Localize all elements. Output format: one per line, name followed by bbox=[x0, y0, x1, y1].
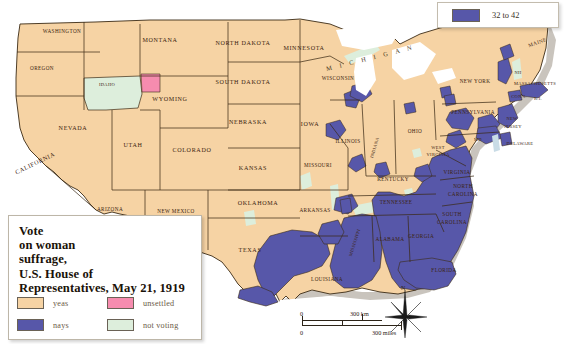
state-label-virginia: VIRGINIA bbox=[427, 152, 450, 157]
title-line-4: U.S. House of bbox=[19, 267, 201, 281]
legend-label-not-voting: not voting bbox=[143, 321, 178, 330]
state-label-new: NEW bbox=[506, 116, 518, 121]
state-label-georgia: GEORGIA bbox=[408, 233, 434, 239]
state-label-minnesota: MINNESOTA bbox=[283, 45, 324, 51]
state-label-north-dakota: NORTH DAKOTA bbox=[215, 40, 270, 46]
state-label-arkansas: ARKANSAS bbox=[299, 207, 330, 213]
state-label-oregon: OREGON bbox=[30, 65, 54, 71]
legend-row-1: yeas unsettled bbox=[17, 292, 197, 314]
legend-label-unsettled: unsettled bbox=[143, 299, 174, 308]
state-label-carolina: CAROLINA bbox=[437, 219, 467, 225]
state-label-jersey: JERSEY bbox=[504, 124, 522, 129]
legend-item-yeas[interactable]: yeas bbox=[17, 297, 107, 309]
legend-row-2: nays not voting bbox=[17, 314, 197, 336]
title-line-2: on woman bbox=[19, 238, 201, 252]
unsettled-regions bbox=[141, 74, 160, 92]
state-label-idaho: IDAHO bbox=[99, 82, 115, 87]
scale-km-max: 300 km bbox=[350, 310, 369, 317]
state-label-iowa: IOWA bbox=[301, 121, 320, 127]
nays-arkansas-east bbox=[340, 198, 352, 214]
state-label-washington: WASHINGTON bbox=[43, 28, 82, 34]
state-label-r-i: R.I. bbox=[534, 96, 542, 101]
compass-icon bbox=[383, 286, 429, 340]
state-label-south-dakota: SOUTH DAKOTA bbox=[216, 79, 271, 85]
state-label-delaware: DELAWARE bbox=[507, 141, 534, 146]
state-label-illinois: ILLINOIS bbox=[335, 138, 360, 144]
title-line-1: Vote bbox=[19, 224, 201, 238]
title-line-3: suffrage, bbox=[19, 252, 201, 266]
state-label-new-york: NEW YORK bbox=[460, 78, 491, 84]
state-label-louisiana: LOUISIANA bbox=[311, 276, 343, 282]
compass-rose: N bbox=[383, 286, 429, 340]
state-label-west: WEST bbox=[431, 145, 444, 150]
state-label-carolina: CAROLINA bbox=[448, 191, 478, 197]
legend-swatch-nays bbox=[17, 319, 44, 331]
state-label-nh: NH bbox=[514, 70, 522, 75]
region-idaho-ne-unsettled bbox=[141, 74, 160, 92]
scale-tick-left bbox=[302, 316, 303, 325]
scale-mi-zero: 0 bbox=[300, 329, 303, 336]
legend-label-nays: nays bbox=[53, 321, 69, 330]
state-label-oklahoma: OKLAHOMA bbox=[238, 200, 279, 206]
state-label-wisconsin: WISCONSIN bbox=[322, 75, 354, 81]
state-label-wyoming: WYOMING bbox=[152, 96, 187, 102]
state-label-south: SOUTH bbox=[442, 211, 461, 217]
legend-swatch-yeas bbox=[17, 297, 44, 309]
legend-item-unsettled[interactable]: unsettled bbox=[107, 297, 197, 309]
legend-item-nays[interactable]: nays bbox=[17, 319, 107, 331]
state-label-florida: FLORIDA bbox=[431, 267, 456, 273]
state-label-virginia: VIRGINIA bbox=[444, 169, 471, 175]
state-label-north: NORTH bbox=[453, 183, 473, 189]
inset-key-box[interactable]: 32 to 42 bbox=[437, 2, 559, 28]
state-label-pennsylvania: PENNSYLVANIA bbox=[451, 109, 495, 115]
legend-swatch-unsettled bbox=[107, 297, 134, 309]
state-label-new-mexico: NEW MEXICO bbox=[157, 208, 194, 214]
map-legend: yeas unsettled nays not voting bbox=[17, 292, 197, 336]
state-label-nebraska: NEBRASKA bbox=[229, 119, 267, 125]
compass-north-label: N bbox=[401, 285, 405, 291]
state-label-ohio: OHIO bbox=[408, 128, 423, 134]
inset-key-label: 32 to 42 bbox=[492, 11, 519, 20]
state-label-conn: CONN. bbox=[511, 94, 526, 99]
scale-tick-km-right bbox=[362, 314, 363, 321]
state-label-montana: MONTANA bbox=[142, 37, 177, 43]
state-label-alabama: ALABAMA bbox=[375, 236, 404, 242]
inset-key-swatch bbox=[452, 9, 480, 22]
map-title: Vote on woman suffrage, U.S. House of Re… bbox=[19, 224, 201, 295]
state-label-tennessee: TENNESSEE bbox=[380, 199, 413, 205]
legend-swatch-not-voting bbox=[107, 319, 134, 331]
state-label-md: MD bbox=[474, 137, 482, 142]
state-label-colorado: COLORADO bbox=[172, 147, 211, 153]
suffrage-vote-map: WASHINGTONOREGONIDAHOMONTANANORTH DAKOTA… bbox=[0, 0, 567, 344]
title-legend-card: Vote on woman suffrage, U.S. House of Re… bbox=[8, 215, 202, 340]
state-label-nevada: NEVADA bbox=[59, 125, 88, 131]
legend-item-not-voting[interactable]: not voting bbox=[107, 319, 197, 331]
state-label-kansas: KANSAS bbox=[239, 165, 267, 171]
state-label-missouri: MISSOURI bbox=[304, 162, 332, 168]
legend-label-yeas: yeas bbox=[53, 299, 68, 308]
state-label-utah: UTAH bbox=[123, 142, 142, 148]
state-label-arizona: ARIZONA bbox=[97, 206, 123, 212]
state-label-texas: TEXAS bbox=[239, 247, 262, 253]
state-label-kentucky: KENTUCKY bbox=[377, 176, 409, 182]
state-label-massachusetts: MASSACHUSETTS bbox=[514, 81, 556, 86]
nays-ohio-north bbox=[404, 102, 416, 114]
